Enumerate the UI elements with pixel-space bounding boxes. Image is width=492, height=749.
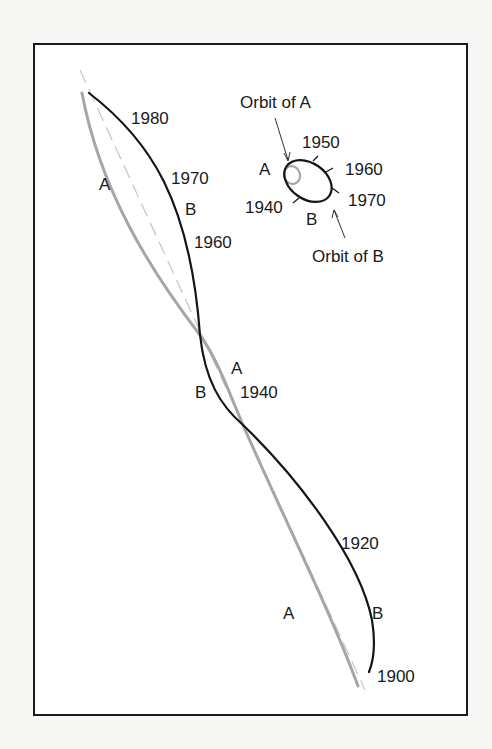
binary-star-diagram: 1980 1970 A B 1960 A B 1940 1920 A B 190… — [0, 0, 492, 749]
inset-star-b-label: B — [306, 210, 317, 229]
star-b-label-lower: B — [372, 604, 383, 623]
star-b-path — [89, 93, 374, 672]
orbit-b-arrow-icon — [334, 210, 345, 238]
star-a-label-upper: A — [99, 175, 111, 194]
inset-year-1950: 1950 — [302, 133, 340, 152]
tick-1960 — [326, 168, 333, 172]
inset-year-1940: 1940 — [245, 198, 283, 217]
inset-orbit-diagram: Orbit of A A 1950 1960 1970 1940 B Orbit… — [240, 93, 386, 266]
orbit-b-ellipse — [276, 151, 339, 210]
star-b-label-middle: B — [195, 383, 206, 402]
year-label-1900: 1900 — [377, 667, 415, 686]
inset-star-a-label: A — [259, 160, 271, 179]
star-a-label-middle: A — [231, 359, 243, 378]
inset-year-1960: 1960 — [345, 160, 383, 179]
orbit-a-arrow-icon — [275, 118, 288, 160]
tick-1940 — [293, 198, 299, 203]
orbit-of-b-label: Orbit of B — [312, 247, 384, 266]
year-label-1940: 1940 — [240, 383, 278, 402]
year-label-1970: 1970 — [171, 169, 209, 188]
year-label-1960: 1960 — [194, 233, 232, 252]
star-a-path — [82, 93, 358, 686]
tick-1950 — [313, 156, 318, 161]
year-label-1980: 1980 — [131, 109, 169, 128]
tick-1970 — [332, 188, 339, 193]
year-label-1920: 1920 — [341, 534, 379, 553]
orbit-of-a-label: Orbit of A — [240, 93, 312, 112]
star-b-label-upper: B — [185, 200, 196, 219]
inset-year-1970: 1970 — [348, 191, 386, 210]
star-a-label-lower: A — [283, 604, 295, 623]
